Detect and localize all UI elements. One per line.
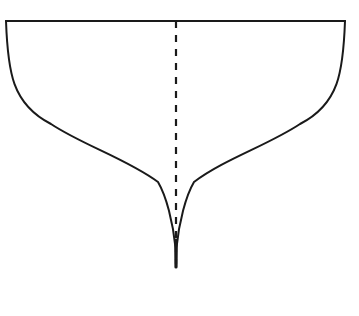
cusp-curve-figure xyxy=(0,0,359,316)
figure-canvas xyxy=(0,0,359,316)
figure-background xyxy=(0,0,359,316)
